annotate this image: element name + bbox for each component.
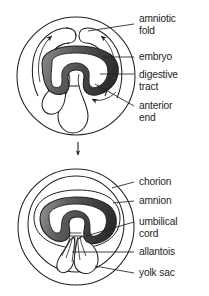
labels-lower: chorion amnion umbilical cord allantois … — [139, 176, 177, 278]
panel-upper — [17, 17, 135, 135]
label-yolk-sac: yolk sac — [139, 267, 175, 278]
label-umbilical-cord-line2: cord — [139, 228, 159, 239]
label-amniotic-fold-line1: amniotic — [139, 13, 176, 24]
label-digestive-tract-line2: tract — [139, 81, 158, 92]
labels-upper: amniotic fold embryo digestive tract ant… — [139, 13, 178, 123]
label-anterior-end-line2: end — [139, 112, 156, 123]
label-anterior-end-line1: anterior — [139, 100, 173, 111]
label-amniotic-fold-line2: fold — [139, 25, 155, 36]
embryo-membrane-diagram: amniotic fold embryo digestive tract ant… — [0, 0, 209, 296]
label-amnion: amnion — [139, 195, 172, 206]
label-embryo: embryo — [139, 51, 173, 62]
diagram-canvas: amniotic fold embryo digestive tract ant… — [0, 0, 209, 296]
label-chorion: chorion — [139, 176, 171, 187]
label-digestive-tract-line1: digestive — [139, 69, 178, 80]
label-umbilical-cord-line1: umbilical — [139, 216, 177, 227]
label-allantois: allantois — [139, 246, 175, 257]
